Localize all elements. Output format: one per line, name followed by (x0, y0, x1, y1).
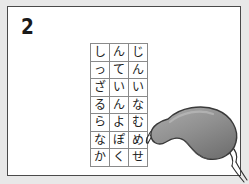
table-row: っ て ん (91, 61, 148, 79)
table-row: し ん じ (91, 44, 148, 62)
kana-cell[interactable]: ん (129, 61, 148, 79)
kana-cell[interactable]: ら (91, 114, 110, 132)
kana-cell[interactable]: ん (110, 96, 129, 114)
kana-cell[interactable]: い (129, 79, 148, 97)
kana-cell[interactable]: く (110, 149, 129, 167)
kana-cell[interactable]: か (91, 149, 110, 167)
kana-cell[interactable]: ざ (91, 79, 110, 97)
sleep-mask-illustration (144, 98, 249, 184)
sleep-mask-body (151, 107, 237, 159)
kana-cell[interactable]: る (91, 96, 110, 114)
worksheet-page: 2 し ん じ っ て ん ざ い い る (0, 0, 249, 184)
kana-cell[interactable]: よ (110, 114, 129, 132)
table-row: ざ い い (91, 79, 148, 97)
table-row: る ん な (91, 96, 148, 114)
kana-cell[interactable]: し (91, 44, 110, 62)
kana-cell[interactable]: い (110, 79, 129, 97)
kana-cell[interactable]: ぽ (110, 131, 129, 149)
table-row: か く せ (91, 149, 148, 167)
table-row: ら よ む (91, 114, 148, 132)
kana-cell[interactable]: っ (91, 61, 110, 79)
table-row: な ぽ め (91, 131, 148, 149)
kana-cell[interactable]: ん (110, 44, 129, 62)
question-number: 2 (21, 17, 33, 38)
kana-cell[interactable]: じ (129, 44, 148, 62)
kana-cell[interactable]: て (110, 61, 129, 79)
kana-cell[interactable]: な (91, 131, 110, 149)
kana-grid: し ん じ っ て ん ざ い い る ん な (90, 43, 148, 167)
